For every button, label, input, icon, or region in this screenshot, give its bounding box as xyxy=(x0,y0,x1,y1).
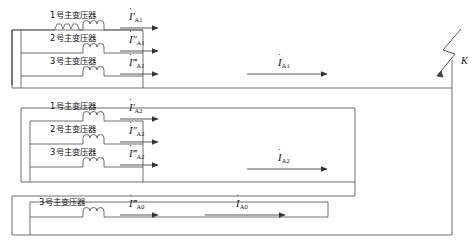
current-dot xyxy=(130,31,132,33)
transformer-label-g2-b3: 3号主变压器 xyxy=(50,148,97,156)
current-primes: ″ xyxy=(133,34,137,45)
current-primes: ‴ xyxy=(133,198,137,209)
transformer-coil-g2-b2 xyxy=(83,135,104,145)
current-subscript: A1 xyxy=(137,62,145,69)
current-label-g1-b1: I′A1 xyxy=(129,12,142,23)
transformer-coil-g0-b1 xyxy=(83,208,104,217)
transformer-coil-g1-b2 xyxy=(83,44,104,54)
fault-point-label: K xyxy=(461,56,468,66)
transformer-label-g1-b3: 3号主变压器 xyxy=(50,57,97,65)
current-dot xyxy=(130,145,132,147)
current-symbol: I xyxy=(129,125,133,136)
current-subscript: A0 xyxy=(137,203,145,210)
current-symbol: I xyxy=(129,148,133,159)
current-label-g1-b2: I″A1 xyxy=(129,35,144,46)
fault-lightning-icon xyxy=(437,29,461,77)
current-primes: ‴ xyxy=(133,148,137,159)
current-primes: ″ xyxy=(133,125,137,136)
current-dot xyxy=(130,122,132,124)
transformer-coils xyxy=(83,21,104,218)
current-dot xyxy=(279,149,281,151)
current-symbol: I xyxy=(129,34,133,45)
current-dot xyxy=(279,54,281,56)
current-label-g0-total: IA0 xyxy=(236,199,248,210)
transformer-label-g2-b1: 1号主变压器 xyxy=(50,102,97,110)
current-dot xyxy=(237,195,239,197)
current-symbol: I xyxy=(129,57,133,68)
current-label-g2-b1: I′A2 xyxy=(129,103,142,114)
current-dot xyxy=(130,195,132,197)
current-label-g2-total: IA2 xyxy=(278,153,290,164)
current-label-g2-b2: I″A2 xyxy=(129,126,144,137)
transformer-coil-g1-b1 xyxy=(83,21,104,30)
current-label-g1-b3: I‴A1 xyxy=(129,58,144,69)
current-arrows xyxy=(120,28,327,215)
current-subscript: A2 xyxy=(135,107,143,114)
current-symbol: I xyxy=(278,57,282,68)
electrical-diagram: 1号主变压器 2号主变压器 3号主变压器 1号主变压器 2号主变压器 3号主变压… xyxy=(0,0,474,251)
current-subscript: A2 xyxy=(137,153,145,160)
transformer-coil-g1-b3 xyxy=(83,67,104,77)
transformer-coil-g2-b3 xyxy=(83,158,104,167)
current-dot xyxy=(130,54,132,56)
transformer-label-g2-b2: 2号主变压器 xyxy=(50,125,97,133)
current-symbol: I xyxy=(236,198,240,209)
transformer-label-g1-b2: 2号主变压器 xyxy=(50,34,97,42)
current-dot xyxy=(130,8,132,10)
current-subscript: A2 xyxy=(137,130,145,137)
current-primes: ‴ xyxy=(133,57,137,68)
current-subscript: A1 xyxy=(137,39,145,46)
current-label-g2-b3: I‴A2 xyxy=(129,149,144,160)
transformer-label-g0-b1: 3号主变压器 xyxy=(39,198,86,206)
current-subscript: A2 xyxy=(282,157,290,164)
current-symbol: I xyxy=(129,102,133,113)
current-subscript: A1 xyxy=(282,62,290,69)
lightning-arrowhead xyxy=(437,71,443,77)
current-label-g1-total: IA1 xyxy=(278,58,290,69)
current-symbol: I xyxy=(129,198,133,209)
current-dot xyxy=(130,99,132,101)
lightning-stroke xyxy=(437,29,461,76)
current-symbol: I xyxy=(129,11,133,22)
current-subscript: A1 xyxy=(135,16,143,23)
current-label-g0-b1: I‴A0 xyxy=(129,199,144,210)
current-symbol: I xyxy=(278,152,282,163)
current-subscript: A0 xyxy=(240,203,248,210)
transformer-label-g1-b1: 1号主变压器 xyxy=(50,11,97,19)
transformer-coil-g2-b1 xyxy=(83,112,104,122)
